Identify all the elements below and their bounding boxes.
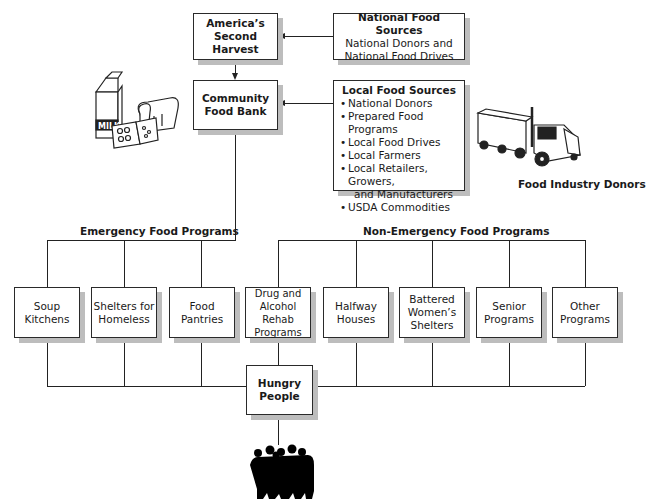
arrow-into-cfb-side: [278, 100, 285, 106]
ash-to-cfb-connector: [235, 59, 236, 73]
up-4: [278, 338, 279, 365]
program-line: Food: [189, 300, 214, 313]
non-emergency-programs-label: Non-Emergency Food Programs: [363, 225, 550, 237]
national-sources-title: National Food Sources: [334, 11, 464, 37]
nonemergency-drop-2: [356, 240, 357, 287]
truck-caption: Food Industry Donors: [518, 178, 646, 190]
local-food-sources-box: Local Food Sources National Donors Prepa…: [333, 80, 465, 191]
program-line: Kitchens: [25, 313, 70, 326]
bottom-bus: [47, 386, 585, 387]
program-box-other-programs: Other Programs: [552, 287, 618, 338]
crowd-silhouette-icon: [248, 445, 316, 501]
program-box-shelters-homeless: Shelters for Homeless: [91, 287, 157, 338]
program-line: Programs: [254, 326, 301, 339]
local-sources-list: National Donors Prepared Food Programs L…: [340, 97, 458, 214]
program-line: Halfway: [335, 300, 377, 313]
arrow-into-ash: [278, 33, 285, 39]
arrow-into-cfb: [232, 73, 238, 80]
emergency-drop-3: [201, 240, 202, 287]
emergency-drop-1: [47, 240, 48, 287]
program-line: Soup: [34, 300, 60, 313]
community-food-bank-box: Community Food Bank: [193, 80, 278, 130]
truck-illustration: [476, 105, 588, 175]
program-line: Shelters for: [94, 300, 155, 313]
hungry-people-line1: Hungry: [258, 377, 301, 390]
national-to-ash-connector: [285, 36, 333, 37]
program-line: Houses: [337, 313, 375, 326]
up-5: [356, 338, 357, 386]
local-to-cfb-connector: [285, 103, 333, 104]
emergency-bus: [47, 240, 236, 241]
program-line: Senior: [492, 300, 525, 313]
program-line: Other: [570, 300, 600, 313]
program-box-soup-kitchens: Soup Kitchens: [14, 287, 80, 338]
local-source-item-continued: and Manufacturers: [340, 188, 458, 201]
local-source-item: USDA Commodities: [340, 201, 458, 214]
up-7: [509, 338, 510, 386]
emergency-drop-2: [124, 240, 125, 287]
program-line: Programs: [484, 313, 534, 326]
ash-line2: Second Harvest: [194, 30, 277, 56]
hungry-people-line2: People: [259, 390, 299, 403]
cfb-line2: Food Bank: [205, 105, 267, 118]
cfb-line1: Community: [202, 92, 269, 105]
up-3: [201, 338, 202, 386]
program-box-senior-programs: Senior Programs: [476, 287, 542, 338]
up-8: [585, 338, 586, 386]
national-sources-line2: National Food Drives: [344, 50, 453, 63]
local-source-item: National Donors: [340, 97, 458, 110]
nonemergency-drop-4: [509, 240, 510, 287]
hungry-people-box: Hungry People: [246, 365, 313, 415]
national-food-sources-box: National Food Sources National Donors an…: [333, 13, 465, 60]
local-source-item: Local Retailers, Growers,: [340, 162, 458, 188]
cfb-trunk: [235, 130, 236, 240]
program-line: Alcohol Rehab: [246, 300, 310, 326]
hungry-to-crowd: [278, 415, 279, 445]
local-source-item: Local Food Drives: [340, 136, 458, 149]
nonemergency-drop-1: [278, 240, 279, 287]
program-box-food-pantries: Food Pantries: [169, 287, 235, 338]
program-line: Battered: [409, 293, 455, 306]
nonemergency-drop-5: [585, 240, 586, 287]
program-box-battered-womens-shelters: Battered Women’s Shelters: [399, 287, 465, 338]
local-sources-title: Local Food Sources: [342, 84, 456, 97]
up-2: [124, 338, 125, 386]
program-box-drug-alcohol-rehab: Drug and Alcohol Rehab Programs: [245, 287, 311, 338]
program-line: Homeless: [98, 313, 149, 326]
local-source-item: Prepared Food Programs: [340, 110, 458, 136]
truck-icon: [478, 107, 580, 166]
national-sources-line1: National Donors and: [345, 37, 453, 50]
program-line: Pantries: [181, 313, 223, 326]
up-1: [47, 338, 48, 386]
groceries-illustration: MILK: [92, 68, 184, 150]
program-box-halfway-houses: Halfway Houses: [323, 287, 389, 338]
program-line: Drug and: [255, 287, 302, 300]
local-source-item: Local Farmers: [340, 149, 458, 162]
nonemergency-drop-3: [432, 240, 433, 287]
program-line: Shelters: [410, 319, 453, 332]
up-6: [432, 338, 433, 386]
ash-line1: America’s: [206, 17, 265, 30]
america-second-harvest-box: America’s Second Harvest: [193, 13, 278, 60]
program-line: Women’s: [408, 306, 456, 319]
emergency-programs-label: Emergency Food Programs: [80, 225, 239, 237]
program-line: Programs: [560, 313, 610, 326]
